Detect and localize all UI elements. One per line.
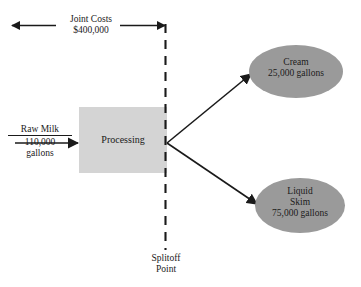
joint-costs-amount: $400,000 — [73, 25, 109, 35]
joint-costs-text: Joint Costs — [70, 14, 112, 24]
splitoff-line2: Point — [156, 264, 176, 274]
cream-name: Cream — [283, 57, 308, 67]
processing-text: Processing — [101, 134, 144, 145]
liquid-skim-name-line1: Liquid — [287, 186, 312, 196]
liquid-skim-name-line2: Skim — [290, 197, 310, 207]
splitoff-point-label: Splitoff Point — [133, 253, 199, 275]
raw-milk-label: Raw Milk 110,000 gallons — [8, 124, 72, 160]
raw-milk-name: Raw Milk — [8, 124, 72, 136]
arrow-to-cream — [167, 74, 251, 143]
raw-milk-quantity: 110,000 — [25, 137, 56, 147]
processing-label: Processing — [81, 134, 165, 146]
raw-milk-unit: gallons — [26, 148, 53, 158]
cream-label: Cream 25,000 gallons — [252, 57, 340, 79]
arrow-to-liquid-skim — [167, 143, 257, 204]
joint-costs-label: Joint Costs $400,000 — [46, 14, 136, 36]
liquid-skim-quantity: 75,000 gallons — [272, 208, 328, 218]
cream-quantity: 25,000 gallons — [268, 68, 324, 78]
liquid-skim-label: Liquid Skim 75,000 gallons — [257, 186, 343, 220]
splitoff-line1: Splitoff — [152, 253, 181, 263]
